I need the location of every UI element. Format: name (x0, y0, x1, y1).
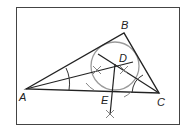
label-d: D (119, 52, 127, 64)
frame-border (17, 8, 180, 125)
label-b: B (121, 19, 128, 31)
label-c: C (157, 96, 165, 108)
label-a: A (18, 91, 26, 103)
label-e: E (101, 94, 109, 106)
incircle-diagram: A B C D E (0, 0, 184, 133)
